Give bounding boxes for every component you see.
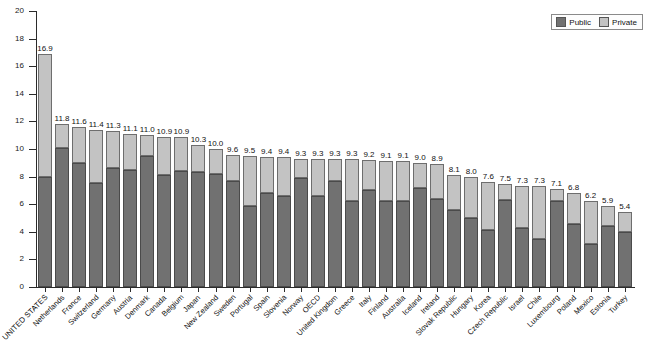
bar-segment-private: [72, 127, 86, 163]
bar-segment-public: [345, 201, 359, 287]
bar-slovenia[interactable]: 9.4: [277, 157, 291, 287]
bar-value-label: 9.1: [397, 151, 408, 160]
x-tick-mark: [250, 287, 251, 292]
bar-segment-public: [515, 228, 529, 287]
bar-segment-private: [362, 160, 376, 190]
bar-segment-public: [140, 156, 154, 287]
bar-denmark[interactable]: 11.0: [140, 135, 154, 287]
bar-sweden[interactable]: 9.6: [226, 155, 240, 287]
bar-value-label: 8.9: [432, 154, 443, 163]
bar-segment-public: [209, 174, 223, 287]
bar-korea[interactable]: 7.6: [481, 182, 495, 287]
bar-value-label: 11.4: [89, 120, 104, 129]
bar-value-label: 10.9: [174, 127, 190, 136]
bar-canada[interactable]: 10.9: [157, 137, 171, 287]
bar-finland[interactable]: 9.1: [379, 161, 393, 287]
bar-value-label: 5.9: [602, 196, 613, 205]
y-tick-label: 16: [2, 62, 24, 70]
bar-segment-private: [618, 212, 632, 231]
bar-israel[interactable]: 7.3: [515, 186, 529, 287]
y-tick-label: 8: [2, 173, 24, 181]
legend-label-public: Public: [569, 18, 591, 27]
bar-segment-private: [209, 149, 223, 174]
y-tick-label: 14: [2, 90, 24, 98]
bar-norway[interactable]: 9.3: [294, 159, 308, 287]
y-tick-mark: [29, 177, 36, 178]
bar-luxembourg[interactable]: 7.1: [550, 189, 564, 287]
bar-turkey[interactable]: 5.4: [618, 212, 632, 287]
bar-value-label: 11.8: [55, 114, 70, 123]
bar-segment-public: [618, 232, 632, 287]
bar-segment-public: [413, 188, 427, 287]
bar-italy[interactable]: 9.2: [362, 160, 376, 287]
y-tick-mark: [29, 121, 36, 122]
bar-segment-public: [191, 172, 205, 287]
bar-segment-public: [260, 193, 274, 287]
x-tick-mark: [164, 287, 165, 292]
bar-united-kingdom[interactable]: 9.3: [328, 159, 342, 287]
y-tick-label: 2: [2, 255, 24, 263]
bar-hungary[interactable]: 8.0: [464, 177, 478, 287]
bar-segment-private: [226, 155, 240, 181]
bar-value-label: 11.6: [72, 117, 87, 126]
y-tick-mark: [29, 11, 36, 12]
bar-value-label: 9.0: [415, 153, 426, 162]
bar-slovak-republic[interactable]: 8.1: [447, 175, 461, 287]
bar-value-label: 9.6: [227, 145, 238, 154]
bar-value-label: 9.3: [346, 149, 357, 158]
bar-segment-public: [379, 201, 393, 287]
bar-segment-public: [550, 201, 564, 287]
legend-item-private[interactable]: Private: [599, 17, 637, 27]
bar-value-label: 7.1: [551, 179, 562, 188]
bar-germany[interactable]: 11.3: [106, 131, 120, 287]
bar-segment-private: [328, 159, 342, 181]
bar-mexico[interactable]: 6.2: [584, 201, 598, 287]
x-tick-mark: [233, 287, 234, 292]
bar-switzerland[interactable]: 11.4: [89, 130, 103, 287]
bar-chile[interactable]: 7.3: [532, 186, 546, 287]
y-tick-label: 18: [2, 35, 24, 43]
bar-segment-private: [481, 182, 495, 230]
legend-item-public[interactable]: Public: [556, 17, 591, 27]
x-tick-mark: [267, 287, 268, 292]
x-tick-mark: [79, 287, 80, 292]
bar-ireland[interactable]: 8.9: [430, 164, 444, 287]
bar-value-label: 9.4: [278, 147, 289, 156]
bar-value-label: 10.0: [208, 139, 224, 148]
x-tick-mark: [471, 287, 472, 292]
bar-segment-public: [464, 218, 478, 287]
bar-segment-public: [498, 200, 512, 287]
bar-estonia[interactable]: 5.9: [601, 206, 615, 287]
bar-iceland[interactable]: 9.0: [413, 163, 427, 287]
bar-segment-public: [294, 178, 308, 287]
bar-oecd[interactable]: 9.3: [311, 159, 325, 287]
bar-segment-private: [532, 186, 546, 238]
bar-belgium[interactable]: 10.9: [174, 137, 188, 287]
bar-segment-private: [243, 156, 257, 206]
bar-segment-public: [567, 224, 581, 287]
bar-austria[interactable]: 11.1: [123, 134, 137, 287]
bar-france[interactable]: 11.6: [72, 127, 86, 287]
bar-new-zealand[interactable]: 10.0: [209, 149, 223, 287]
bar-greece[interactable]: 9.3: [345, 159, 359, 287]
bar-spain[interactable]: 9.4: [260, 157, 274, 287]
bar-poland[interactable]: 6.8: [567, 193, 581, 287]
bar-segment-private: [123, 134, 137, 170]
x-tick-mark: [130, 287, 131, 292]
bar-segment-private: [464, 177, 478, 218]
bar-japan[interactable]: 10.3: [191, 145, 205, 287]
bar-czech-republic[interactable]: 7.5: [498, 184, 512, 288]
bar-segment-private: [311, 159, 325, 196]
chart-legend: Public Private: [551, 14, 643, 30]
bar-segment-private: [601, 206, 615, 227]
bar-australia[interactable]: 9.1: [396, 161, 410, 287]
bar-segment-private: [157, 137, 171, 176]
bar-value-label: 6.2: [585, 191, 596, 200]
bar-segment-private: [447, 175, 461, 210]
bar-portugal[interactable]: 9.5: [243, 156, 257, 287]
bar-netherlands[interactable]: 11.8: [55, 124, 69, 287]
x-tick-mark: [96, 287, 97, 292]
bar-united-states[interactable]: 16.9: [38, 54, 52, 287]
bar-segment-public: [243, 206, 257, 287]
bar-segment-public: [55, 148, 69, 287]
